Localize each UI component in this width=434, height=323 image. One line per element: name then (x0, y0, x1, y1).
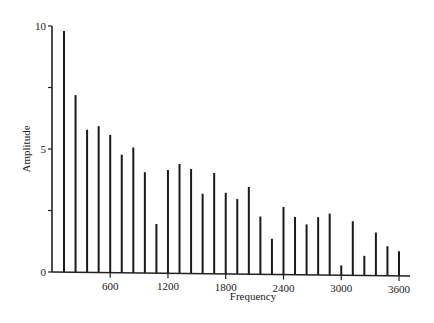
x-tick-label: 1200 (157, 280, 180, 292)
x-tick-label: 3600 (388, 283, 411, 295)
x-tick-label: 600 (102, 280, 119, 292)
amplitude-bars (64, 31, 399, 276)
y-tick-label: 5 (41, 143, 47, 155)
x-tick-label: 3000 (330, 282, 353, 294)
y-axis-label: Amplitude (20, 125, 32, 172)
y-tick-label: 0 (41, 266, 47, 278)
x-axis (52, 272, 410, 276)
y-axis-ticks: 0510 (35, 20, 52, 278)
x-axis-label: Frequency (230, 290, 277, 302)
y-tick-label: 10 (35, 20, 47, 32)
spectrum-chart: 0510 60012001800240030003600 Frequency A… (0, 0, 434, 323)
